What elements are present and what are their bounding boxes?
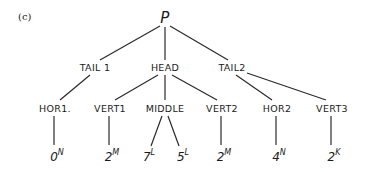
node-middle: MIDDLE — [146, 103, 185, 114]
edge-tail1-hor1 — [60, 75, 90, 100]
leaf-value: 2 — [105, 150, 113, 164]
leaf-superscript: K — [335, 148, 340, 157]
node-tail1: TAIL 1 — [80, 62, 111, 73]
tree-edges — [0, 0, 370, 172]
node-vert3: VERT3 — [316, 103, 348, 114]
leaf-vert2: 2M — [217, 149, 232, 164]
edge-head-vert2 — [172, 75, 217, 100]
leaf-value: 7 — [143, 150, 151, 164]
leaf-value: 4 — [272, 150, 280, 164]
leaf-value: 5 — [177, 150, 185, 164]
leaf-superscript: M — [112, 148, 119, 157]
node-head: HEAD — [151, 62, 179, 73]
edge-tail2-vert3 — [247, 73, 326, 100]
tree-diagram: (c) P TAIL 1 HEAD TAIL2 HOR1. VERT1 MIDD… — [0, 0, 370, 172]
edge-head-vert1 — [115, 75, 158, 100]
leaf-value: 2 — [217, 150, 225, 164]
leaf-superscript: L — [185, 148, 189, 157]
root-node-p: P — [160, 9, 169, 27]
node-hor2: HOR2 — [263, 103, 291, 114]
leaf-superscript: N — [58, 148, 64, 157]
leaf-superscript: L — [151, 148, 155, 157]
leaf-vert3: 2K — [328, 149, 341, 164]
leaf-value: 2 — [328, 150, 336, 164]
edge-p-tail1 — [100, 26, 160, 60]
node-vert1: VERT1 — [94, 103, 126, 114]
edge-p-tail2 — [170, 26, 228, 60]
leaf-vert1: 2M — [105, 149, 120, 164]
leaf-superscript: M — [224, 148, 231, 157]
leaf-hor2: 4N — [272, 149, 286, 164]
leaf-superscript: N — [280, 148, 286, 157]
leaf-middle-right: 5L — [177, 149, 189, 164]
node-vert2: VERT2 — [206, 103, 238, 114]
node-hor1: HOR1. — [39, 103, 71, 114]
edge-middle-5 — [168, 116, 179, 146]
edge-tail2-hor2 — [236, 75, 272, 100]
leaf-middle-left: 7L — [143, 149, 155, 164]
leaf-hor1: 0N — [50, 149, 64, 164]
panel-label: (c) — [18, 11, 31, 22]
edge-middle-7 — [151, 116, 162, 146]
node-tail2: TAIL2 — [218, 62, 245, 73]
leaf-value: 0 — [50, 150, 58, 164]
